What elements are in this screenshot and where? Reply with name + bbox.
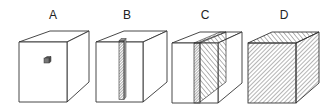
panel-a: A	[19, 8, 89, 102]
cube-d	[248, 32, 319, 103]
panel-label-b: B	[123, 8, 131, 22]
figure: A B C	[0, 0, 336, 111]
panel-b: B	[96, 8, 167, 102]
cube-a	[19, 31, 89, 102]
panel-label-d: D	[280, 8, 289, 22]
panel-label-a: A	[49, 8, 57, 22]
panel-c: C	[172, 8, 242, 103]
panel-label-c: C	[201, 8, 210, 22]
panel-d: D	[248, 8, 319, 103]
column-sample	[119, 39, 126, 100]
cube-b	[96, 31, 167, 102]
